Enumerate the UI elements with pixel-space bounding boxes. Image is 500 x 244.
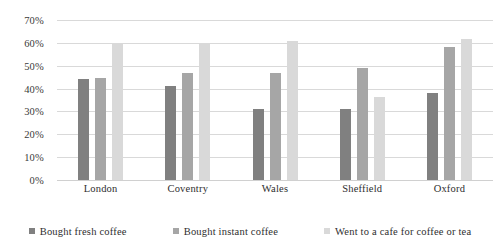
legend-swatch-icon: [29, 228, 35, 234]
bar-group-bars: [231, 20, 318, 180]
legend-item[interactable]: Bought instant coffee: [173, 226, 278, 237]
bar-group-bars: [144, 20, 231, 180]
bar-groups: [57, 20, 493, 180]
bar-group-bars: [319, 20, 406, 180]
y-axis-tick-label: 30%: [24, 106, 44, 117]
y-axis-tick-label: 50%: [24, 60, 44, 71]
y-axis-tick-label: 10%: [24, 152, 44, 163]
legend-swatch-icon: [173, 228, 179, 234]
x-axis: LondonCoventryWalesSheffieldOxford: [57, 183, 493, 201]
x-axis-tick-label: Wales: [231, 183, 318, 201]
bar[interactable]: [165, 86, 176, 180]
gridline: [57, 180, 493, 181]
bar-group: [231, 20, 318, 180]
bar[interactable]: [253, 109, 264, 180]
x-axis-tick-label: Sheffield: [319, 183, 406, 201]
x-axis-tick-label: London: [57, 183, 144, 201]
y-axis-tick-label: 20%: [24, 129, 44, 140]
bar[interactable]: [287, 41, 298, 180]
y-axis-tick-label: 0%: [30, 175, 44, 186]
legend-item-label: Bought fresh coffee: [40, 226, 127, 237]
bar[interactable]: [78, 79, 89, 180]
legend-item[interactable]: Bought fresh coffee: [29, 226, 127, 237]
bar-group: [57, 20, 144, 180]
bar[interactable]: [199, 43, 210, 180]
y-axis-tick-label: 40%: [24, 83, 44, 94]
y-axis-tick-label: 60%: [24, 37, 44, 48]
bar-group: [406, 20, 493, 180]
bar[interactable]: [374, 97, 385, 180]
y-axis-tick-label: 70%: [24, 15, 44, 26]
y-axis: 0%10%20%30%40%50%60%70%: [0, 20, 52, 180]
bar-group: [144, 20, 231, 180]
bar[interactable]: [112, 43, 123, 180]
legend-item[interactable]: Went to a cafe for coffee or tea: [324, 226, 471, 237]
bar-group-bars: [406, 20, 493, 180]
bar[interactable]: [444, 47, 455, 180]
bar[interactable]: [270, 73, 281, 180]
legend-swatch-icon: [324, 228, 330, 234]
bar-group-bars: [57, 20, 144, 180]
bar[interactable]: [182, 73, 193, 180]
bar[interactable]: [461, 39, 472, 180]
bar[interactable]: [95, 78, 106, 180]
bar-group: [319, 20, 406, 180]
legend-item-label: Bought instant coffee: [184, 226, 278, 237]
chart-legend: Bought fresh coffeeBought instant coffee…: [0, 222, 500, 240]
bar[interactable]: [427, 93, 438, 180]
x-axis-tick-label: Oxford: [406, 183, 493, 201]
x-axis-tick-label: Coventry: [144, 183, 231, 201]
bar-chart: 0%10%20%30%40%50%60%70% LondonCoventryWa…: [0, 0, 500, 244]
bar[interactable]: [340, 109, 351, 180]
legend-item-label: Went to a cafe for coffee or tea: [335, 226, 471, 237]
bar[interactable]: [357, 68, 368, 180]
